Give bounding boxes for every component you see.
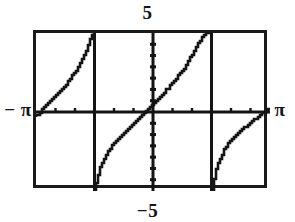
x-min-label: − π — [2, 100, 34, 119]
plot-frame — [33, 30, 267, 188]
curve-branch-right — [214, 109, 270, 191]
y-min-label: −5 — [0, 201, 295, 220]
plot-canvas — [36, 33, 270, 191]
curve-branch-left — [36, 33, 94, 117]
x-max-label: π — [267, 100, 293, 119]
graph-figure: 5 −5 − π π — [0, 0, 295, 222]
y-max-label: 5 — [0, 3, 295, 22]
